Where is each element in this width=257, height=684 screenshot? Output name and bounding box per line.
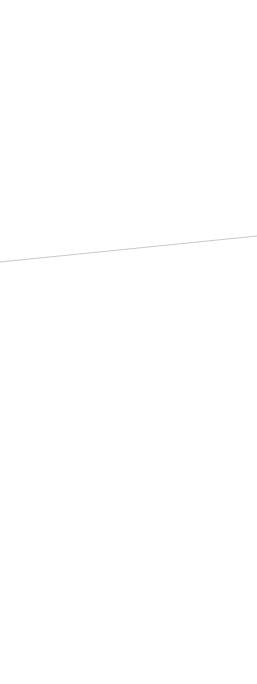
stratigraphic-log-chart (0, 0, 257, 684)
faint-scan-line (0, 236, 257, 262)
